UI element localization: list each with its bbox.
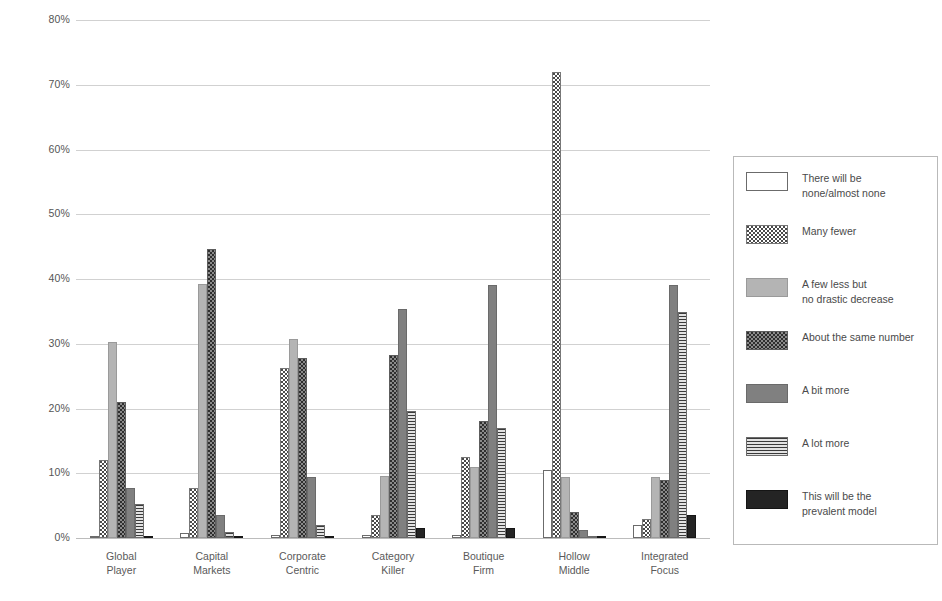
bar[interactable] <box>207 249 216 538</box>
x-axis-label-line: Centric <box>257 563 348 577</box>
chart-root: 80%70%60%50%40%30%20%10%0% GlobalPlayerC… <box>0 0 942 601</box>
bar[interactable] <box>108 342 117 538</box>
bar[interactable] <box>298 358 307 538</box>
bar[interactable] <box>216 515 225 538</box>
bar-group <box>76 20 167 538</box>
bar[interactable] <box>579 530 588 538</box>
bar[interactable] <box>407 411 416 538</box>
bar[interactable] <box>678 312 687 538</box>
legend-swatch <box>746 331 788 350</box>
x-axis-category-label: IntegratedFocus <box>619 549 710 599</box>
bar[interactable] <box>126 488 135 539</box>
bar[interactable] <box>461 457 470 538</box>
bar[interactable] <box>552 72 561 538</box>
bar[interactable] <box>362 535 371 538</box>
legend-label-line: About the same number <box>802 330 914 345</box>
y-axis-tick-label: 10% <box>8 466 70 478</box>
bar[interactable] <box>561 477 570 539</box>
x-axis-label-line: Integrated <box>619 549 710 563</box>
bar[interactable] <box>398 309 407 538</box>
x-axis-category-label: GlobalPlayer <box>76 549 167 599</box>
legend-label-line: There will be <box>802 171 885 186</box>
bar[interactable] <box>452 535 461 538</box>
bar[interactable] <box>289 339 298 538</box>
gridline <box>76 538 710 539</box>
bar[interactable] <box>389 355 398 538</box>
bar[interactable] <box>488 285 497 538</box>
bar[interactable] <box>316 525 325 538</box>
bar[interactable] <box>144 536 153 538</box>
y-axis-tick-label: 20% <box>8 402 70 414</box>
x-axis-label-line: Boutique <box>438 549 529 563</box>
bar[interactable] <box>570 512 579 538</box>
bar-set <box>633 20 696 538</box>
bar[interactable] <box>90 536 99 538</box>
bar[interactable] <box>307 477 316 538</box>
legend-item[interactable]: A bit more <box>746 383 931 436</box>
bar-group <box>348 20 439 538</box>
bar[interactable] <box>198 284 207 538</box>
legend-label: Many fewer <box>802 224 856 239</box>
bar-set <box>90 20 153 538</box>
bar[interactable] <box>497 428 506 538</box>
legend-label: This will be theprevalent model <box>802 489 877 518</box>
bar[interactable] <box>588 536 597 538</box>
y-axis-tick-label: 40% <box>8 272 70 284</box>
bar[interactable] <box>543 470 552 538</box>
bar[interactable] <box>597 536 606 538</box>
x-axis-category-label: BoutiqueFirm <box>438 549 529 599</box>
bar-set <box>362 20 425 538</box>
bar[interactable] <box>633 525 642 538</box>
bar[interactable] <box>642 519 651 538</box>
legend-item[interactable]: Many fewer <box>746 224 931 277</box>
x-axis-category-label: CapitalMarkets <box>167 549 258 599</box>
bar[interactable] <box>506 528 515 538</box>
y-axis-tick-label: 80% <box>8 13 70 25</box>
legend-swatch <box>746 490 788 509</box>
bar-group <box>619 20 710 538</box>
bar[interactable] <box>380 476 389 538</box>
legend-item[interactable]: A few less butno drastic decrease <box>746 277 931 330</box>
x-axis-label-line: Capital <box>167 549 258 563</box>
bar[interactable] <box>180 533 189 538</box>
x-axis-label-line: Markets <box>167 563 258 577</box>
y-axis: 80%70%60%50%40%30%20%10%0% <box>0 20 70 538</box>
legend-label-line: A bit more <box>802 383 849 398</box>
legend-item[interactable]: About the same number <box>746 330 931 383</box>
bar[interactable] <box>669 285 678 538</box>
bar[interactable] <box>117 402 126 538</box>
bar[interactable] <box>660 480 669 538</box>
x-axis-label-line: Corporate <box>257 549 348 563</box>
bar[interactable] <box>271 535 280 538</box>
y-axis-tick-label: 30% <box>8 337 70 349</box>
legend-swatch <box>746 278 788 297</box>
legend-label: A bit more <box>802 383 849 398</box>
bar-set <box>543 20 606 538</box>
bar[interactable] <box>470 467 479 538</box>
bar[interactable] <box>479 421 488 538</box>
bar[interactable] <box>280 368 289 538</box>
bar[interactable] <box>651 477 660 539</box>
bar[interactable] <box>135 504 144 538</box>
legend-item[interactable]: A lot more <box>746 436 931 489</box>
bar-group <box>529 20 620 538</box>
bar[interactable] <box>371 515 380 538</box>
bar[interactable] <box>687 515 696 538</box>
y-axis-tick-label: 70% <box>8 78 70 90</box>
legend-label: There will benone/almost none <box>802 171 885 200</box>
legend-item[interactable]: There will benone/almost none <box>746 171 931 224</box>
plot-area <box>76 20 710 538</box>
bar[interactable] <box>225 532 234 538</box>
bar[interactable] <box>189 488 198 539</box>
legend-label-line: A few less but <box>802 277 894 292</box>
legend-item[interactable]: This will be theprevalent model <box>746 489 931 542</box>
x-axis-label-line: Global <box>76 549 167 563</box>
bar[interactable] <box>234 536 243 538</box>
bar[interactable] <box>99 460 108 538</box>
bar[interactable] <box>325 536 334 538</box>
bar-set <box>271 20 334 538</box>
bar[interactable] <box>416 528 425 538</box>
bar-group <box>438 20 529 538</box>
legend-label-line: This will be the <box>802 489 877 504</box>
x-axis-category-label: CorporateCentric <box>257 549 348 599</box>
